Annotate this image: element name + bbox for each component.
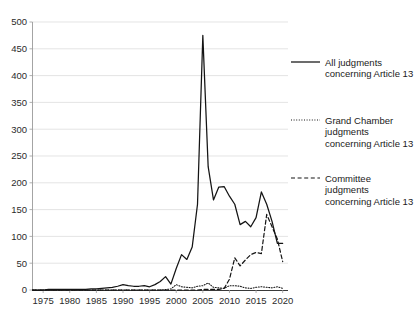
y-axis-tick-label: 50 (16, 258, 27, 269)
legend-label-all-line2: concerning Article 13 (325, 68, 413, 79)
x-axis-tick-label: 2020 (272, 295, 293, 306)
x-tick-labels: 1975198019851990199520002005201020152020 (33, 295, 294, 306)
y-axis-tick-label: 250 (11, 150, 27, 161)
x-axis-tick-label: 1975 (33, 295, 54, 306)
chart-canvas: 500450400350300250200150100500 197519801… (0, 0, 419, 328)
x-axis-tick-label: 2015 (245, 295, 266, 306)
x-axis-tick-label: 1985 (86, 295, 107, 306)
x-axis-tick-label: 1980 (59, 295, 80, 306)
legend-label-committee-line2: judgments (324, 184, 369, 195)
series-line-committee-judgments (33, 214, 283, 290)
legend-label-committee-line3: concerning Article 13 (325, 196, 413, 207)
y-axis-tick-label: 450 (11, 43, 27, 54)
legend-item-grand-chamber[interactable]: Grand Chamber judgments concerning Artic… (291, 115, 413, 149)
y-axis-tick-label: 100 (11, 231, 27, 242)
legend-label-grand-line1: Grand Chamber (325, 115, 393, 126)
y-axis-tick-label: 200 (11, 177, 27, 188)
legend-label-committee-line1: Committee (325, 173, 371, 184)
y-tick-labels: 500450400350300250200150100500 (11, 16, 32, 295)
x-axis-tick-label: 2005 (192, 295, 213, 306)
y-axis-tick-label: 0 (22, 284, 27, 295)
y-axis-tick-label: 500 (11, 16, 27, 27)
series-line-all-judgments (33, 35, 283, 290)
x-axis-tick-label: 2000 (166, 295, 187, 306)
legend-item-all[interactable]: All judgments concerning Article 13 (291, 57, 413, 80)
legend-label-grand-line3: concerning Article 13 (325, 138, 413, 149)
legend: All judgments concerning Article 13 Gran… (291, 57, 413, 207)
legend-label-all-line1: All judgments (325, 57, 382, 68)
x-axis-tick-label: 1990 (112, 295, 133, 306)
gridlines (33, 22, 289, 263)
y-axis-tick-label: 300 (11, 124, 27, 135)
y-axis-tick-label: 150 (11, 204, 27, 215)
legend-item-committee[interactable]: Committee judgments concerning Article 1… (291, 173, 413, 207)
y-axis-tick-label: 400 (11, 70, 27, 81)
x-axis-tick-label: 1995 (139, 295, 160, 306)
y-axis-tick-label: 350 (11, 97, 27, 108)
x-axis-tick-label: 2010 (219, 295, 240, 306)
series-group (33, 35, 283, 290)
legend-label-grand-line2: judgments (324, 126, 369, 137)
line-chart-article-13: 500450400350300250200150100500 197519801… (0, 0, 419, 328)
